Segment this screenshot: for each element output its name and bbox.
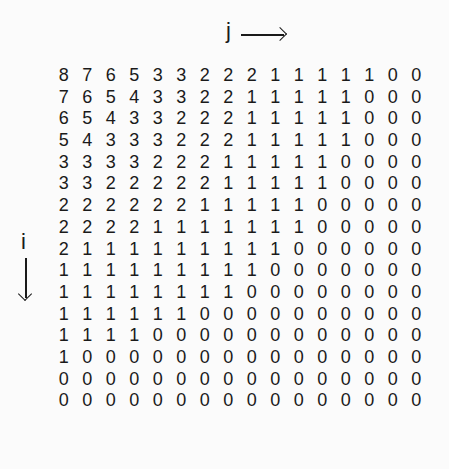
matrix-cell: 1 — [52, 282, 76, 304]
matrix-cell: 1 — [240, 108, 264, 130]
matrix-cell: 1 — [311, 108, 335, 130]
matrix-cell: 1 — [334, 65, 358, 87]
matrix-cell: 0 — [334, 282, 358, 304]
matrix-cell: 0 — [170, 325, 194, 347]
matrix-row: 5433322211111000 — [52, 130, 428, 152]
matrix-cell: 0 — [334, 369, 358, 391]
matrix-cell: 1 — [240, 87, 264, 109]
matrix-cell: 0 — [334, 217, 358, 239]
matrix-cell: 0 — [334, 173, 358, 195]
matrix-cell: 0 — [146, 369, 170, 391]
matrix-cell: 0 — [311, 260, 335, 282]
matrix-cell: 1 — [76, 239, 100, 261]
matrix-cell: 0 — [334, 304, 358, 326]
matrix-cell: 2 — [76, 195, 100, 217]
matrix-cell: 1 — [264, 217, 288, 239]
matrix-cell: 0 — [193, 304, 217, 326]
matrix-cell: 3 — [170, 65, 194, 87]
matrix-cell: 0 — [381, 390, 405, 412]
matrix-cell: 1 — [264, 173, 288, 195]
matrix-cell: 0 — [311, 325, 335, 347]
matrix-cell: 1 — [217, 282, 241, 304]
down-arrow-icon — [25, 258, 27, 298]
matrix-cell: 1 — [217, 195, 241, 217]
matrix-cell: 2 — [76, 217, 100, 239]
matrix-cell: 0 — [405, 65, 429, 87]
matrix-cell: 1 — [146, 304, 170, 326]
matrix-row: 2222221111100000 — [52, 195, 428, 217]
matrix-cell: 1 — [287, 130, 311, 152]
matrix-cell: 0 — [217, 347, 241, 369]
matrix-row: 2111111111000000 — [52, 239, 428, 261]
matrix-cell: 0 — [381, 195, 405, 217]
matrix-cell: 0 — [217, 390, 241, 412]
matrix-cell: 1 — [311, 173, 335, 195]
matrix-cell: 4 — [76, 130, 100, 152]
matrix-cell: 0 — [170, 390, 194, 412]
matrix-cell: 2 — [146, 173, 170, 195]
matrix-cell: 0 — [334, 347, 358, 369]
matrix-cell: 1 — [334, 108, 358, 130]
matrix-cell: 1 — [311, 87, 335, 109]
matrix-cell: 6 — [99, 65, 123, 87]
matrix-cell: 0 — [311, 390, 335, 412]
matrix-row: 0000000000000000 — [52, 369, 428, 391]
matrix-cell: 0 — [334, 239, 358, 261]
matrix-cell: 0 — [334, 152, 358, 174]
matrix-cell: 1 — [240, 173, 264, 195]
matrix-cell: 0 — [287, 260, 311, 282]
matrix-row: 3322222111110000 — [52, 173, 428, 195]
matrix-cell: 2 — [146, 152, 170, 174]
matrix-cell: 2 — [99, 195, 123, 217]
matrix-cell: 0 — [240, 325, 264, 347]
matrix-cell: 0 — [405, 239, 429, 261]
matrix-cell: 0 — [381, 369, 405, 391]
matrix-cell: 2 — [193, 87, 217, 109]
matrix-cell: 1 — [264, 87, 288, 109]
matrix-cell: 0 — [358, 282, 382, 304]
matrix-row: 1111000000000000 — [52, 325, 428, 347]
matrix-cell: 0 — [76, 369, 100, 391]
matrix-cell: 3 — [146, 108, 170, 130]
matrix-cell: 0 — [193, 369, 217, 391]
matrix-cell: 2 — [99, 217, 123, 239]
matrix-cell: 2 — [193, 152, 217, 174]
matrix-cell: 0 — [405, 130, 429, 152]
matrix-cell: 0 — [311, 282, 335, 304]
matrix-cell: 8 — [52, 65, 76, 87]
matrix-cell: 1 — [240, 195, 264, 217]
matrix-row: 1111111100000000 — [52, 282, 428, 304]
matrix-cell: 1 — [287, 173, 311, 195]
matrix-cell: 2 — [123, 173, 147, 195]
matrix-cell: 0 — [123, 347, 147, 369]
matrix-cell: 2 — [170, 195, 194, 217]
matrix-cell: 0 — [217, 304, 241, 326]
matrix-cell: 7 — [76, 65, 100, 87]
matrix-cell: 1 — [264, 239, 288, 261]
matrix-cell: 0 — [334, 325, 358, 347]
matrix-cell: 0 — [405, 282, 429, 304]
matrix-cell: 1 — [170, 217, 194, 239]
matrix-cell: 0 — [381, 173, 405, 195]
matrix-cell: 5 — [52, 130, 76, 152]
matrix-cell: 0 — [170, 347, 194, 369]
matrix-cell: 0 — [358, 304, 382, 326]
matrix-cell: 3 — [146, 87, 170, 109]
matrix-cell: 1 — [123, 282, 147, 304]
matrix-cell: 3 — [52, 173, 76, 195]
matrix-cell: 0 — [52, 390, 76, 412]
matrix-cell: 0 — [287, 325, 311, 347]
matrix-cell: 1 — [170, 260, 194, 282]
matrix-cell: 0 — [76, 390, 100, 412]
matrix-cell: 0 — [381, 217, 405, 239]
matrix-cell: 1 — [217, 152, 241, 174]
matrix-cell: 1 — [146, 282, 170, 304]
matrix-cell: 1 — [170, 282, 194, 304]
matrix-cell: 0 — [311, 195, 335, 217]
matrix-cell: 0 — [405, 217, 429, 239]
matrix-cell: 2 — [217, 130, 241, 152]
matrix-cell: 0 — [358, 130, 382, 152]
matrix-cell: 2 — [99, 173, 123, 195]
matrix-cell: 1 — [287, 152, 311, 174]
j-axis-label: j — [226, 18, 231, 44]
